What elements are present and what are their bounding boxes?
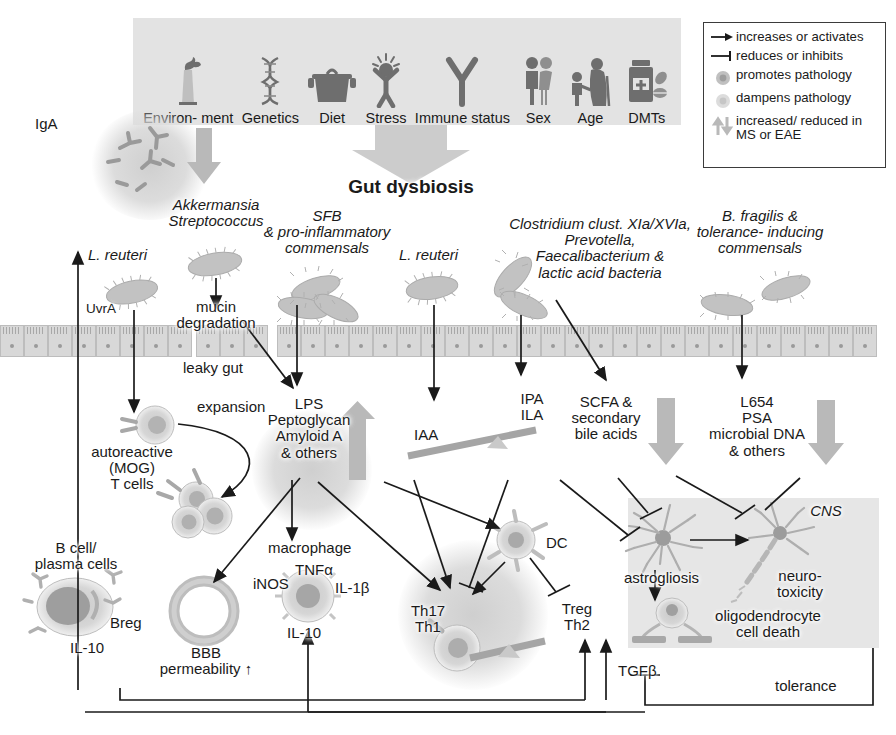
dc-label: DC: [546, 535, 568, 551]
astrocyte-cell: [626, 505, 702, 572]
tolerance-label: tolerance: [775, 678, 837, 694]
clostridium-label: Clostridium clust. XIa/XVIa, Prevotella,…: [509, 216, 691, 281]
l-reuteri-mid-label: L. reuteri: [399, 247, 458, 263]
bacteria-akkermansia: [187, 244, 244, 284]
sfb-label: SFB & pro-inflammatory commensals: [264, 208, 391, 257]
oligodendrocyte-label: oligodendrocyte cell death: [715, 608, 821, 640]
bbb-vessel: [174, 581, 234, 641]
iga-antibody-cluster: [108, 128, 173, 190]
il1b-label: IL-1β: [335, 580, 369, 596]
tgfb-label: TGFβ: [618, 663, 657, 679]
b-plasma-cells-label: B cell/ plasma cells: [35, 540, 118, 572]
akkermansia-label: Akkermansia Streptococcus: [168, 197, 263, 229]
treg-th2-label: Treg Th2: [562, 601, 592, 633]
l-reuteri-left-label: L. reuteri: [88, 247, 147, 263]
autoreactive-t-cells-label: autoreactive (MOG) T cells: [91, 444, 173, 493]
oligodendrocyte-cell: [632, 598, 712, 643]
ipa-ila-label: IPA ILA: [520, 391, 543, 423]
iga-down-arrow-icon: [187, 128, 221, 184]
b-fragilis-label: B. fragilis & tolerance- inducing commen…: [697, 208, 824, 257]
tnfa-label: TNFα: [295, 562, 333, 578]
scfa-down-gray-arrow-icon: [648, 398, 684, 465]
iga-label: IgA: [35, 116, 58, 132]
expansion-label: expansion: [197, 399, 265, 415]
cns-label: CNS: [810, 503, 842, 519]
l654-label: L654 PSA microbial DNA & others: [709, 394, 805, 459]
dendritic-cell: [489, 511, 546, 570]
th17-th1-label: Th17 Th1: [411, 603, 445, 635]
scfa-label: SCFA & secondary bile acids: [571, 394, 640, 443]
bacteria-l-reuteri-mid: [404, 269, 459, 307]
bacteria-b-fragilis-cluster: [700, 271, 813, 320]
inos-label: iNOS: [253, 576, 289, 592]
neurotoxicity-label: neuro- toxicity: [777, 568, 823, 600]
macrophage-label: macrophage: [268, 540, 351, 556]
autoreactive-t-cell: [122, 406, 174, 444]
il10-b-label: IL-10: [70, 640, 104, 656]
b-plasma-cell: [24, 570, 121, 636]
breg-label: Breg: [110, 615, 142, 631]
iaa-label: IAA: [414, 427, 438, 443]
gut-dysbiosis-heading: Gut dysbiosis: [348, 177, 474, 198]
uvra-label: UvrA: [86, 302, 116, 317]
bacteria-sfb-cluster: [277, 266, 362, 328]
leaky-gut-label: leaky gut: [183, 360, 243, 376]
mucin-degradation-label: mucin degradation: [176, 299, 255, 331]
pathway-diagram: Environ- ment Genetics: [0, 0, 896, 735]
astrogliosis-label: astrogliosis: [624, 570, 699, 586]
lps-label: LPS Peptoglycan Amyloid A & others: [268, 396, 351, 461]
bbb-label: BBB permeability ↑: [160, 645, 253, 677]
il10-macrophage-label: IL-10: [287, 625, 321, 641]
l654-down-gray-arrow-icon: [808, 400, 844, 465]
